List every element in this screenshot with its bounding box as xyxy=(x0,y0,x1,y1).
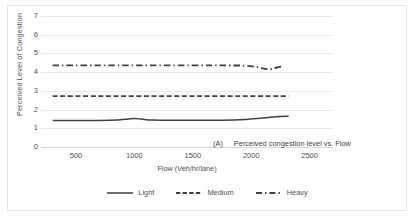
series-line-heavy xyxy=(53,65,284,69)
legend-label: Medium xyxy=(207,188,233,197)
x-tick-label: 1000 xyxy=(126,152,143,160)
gridline-y-7 xyxy=(41,16,333,17)
y-tick-label: 7 xyxy=(34,12,38,20)
legend-swatch-solid-icon xyxy=(107,189,133,197)
chart-figure: Perceived Level of Congestion 01234567 5… xyxy=(0,0,415,223)
y-axis-tick-labels: 01234567 xyxy=(20,16,38,147)
y-tick-label: 2 xyxy=(34,106,38,114)
y-tick-label: 6 xyxy=(34,31,38,39)
gridline-y-2 xyxy=(41,110,333,111)
legend-label: Light xyxy=(138,188,154,197)
x-tick-label: 2500 xyxy=(301,152,318,160)
legend-item-light[interactable]: Light xyxy=(107,188,154,197)
plot-area xyxy=(41,16,333,147)
y-tick-label: 0 xyxy=(34,143,38,151)
gridline-y-5 xyxy=(41,53,333,54)
y-tick-label: 3 xyxy=(34,87,38,95)
x-tick-label: 2000 xyxy=(243,152,260,160)
y-tick-label: 1 xyxy=(34,125,38,133)
gridline-y-4 xyxy=(41,72,333,73)
chart-legend: LightMediumHeavy xyxy=(0,188,415,197)
y-tick-label: 4 xyxy=(34,68,38,76)
legend-swatch-dash-dot-icon xyxy=(256,189,282,197)
x-tick-label: 1500 xyxy=(184,152,201,160)
gridline-y-3 xyxy=(41,91,333,92)
legend-swatch-dashed-icon xyxy=(176,189,202,197)
x-axis-tick-labels: 5001000150020002500 xyxy=(41,152,333,164)
x-tick-label: 500 xyxy=(70,152,83,160)
x-axis-title: Flow (Veh/hr/lane) xyxy=(41,164,333,173)
y-tick-label: 5 xyxy=(34,50,38,58)
series-line-light xyxy=(53,116,289,120)
caption-text: Perceived congestion level vs. Flow xyxy=(234,139,351,148)
legend-label: Heavy xyxy=(287,188,308,197)
legend-item-medium[interactable]: Medium xyxy=(176,188,233,197)
caption-tag: (A) xyxy=(213,139,223,148)
legend-item-heavy[interactable]: Heavy xyxy=(256,188,308,197)
figure-caption: (A)Perceived congestion level vs. Flow xyxy=(213,139,351,148)
gridline-y-1 xyxy=(41,128,333,129)
gridline-y-6 xyxy=(41,35,333,36)
